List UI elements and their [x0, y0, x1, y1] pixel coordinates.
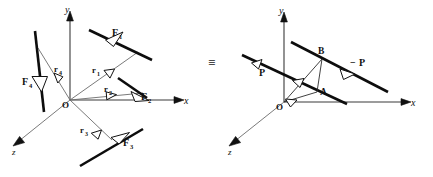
left-axis-x	[70, 97, 184, 104]
right-point-A-label: A	[320, 87, 327, 97]
left-position-vector-r3	[70, 100, 112, 140]
left-force-F1-label-subscript: 1	[119, 33, 122, 40]
right-axis-x-label: x	[410, 97, 416, 108]
left-force-F4	[32, 31, 48, 112]
left-force-F1-label-letter: F	[112, 27, 118, 38]
right-axis-x-arrowhead	[401, 99, 411, 106]
left-axis-z-label: z	[11, 147, 16, 157]
left-r3-line	[70, 100, 112, 140]
right-axis-y	[281, 12, 288, 102]
left-r2-label-letter: r	[104, 84, 108, 94]
left-diagram: y x z O F 1 F 2 F 3 F 4 r 1	[11, 4, 189, 166]
left-axis-x-arrowhead	[174, 97, 184, 104]
right-connector-O-to-B-arrowhead	[293, 79, 305, 88]
left-axis-x-label: x	[183, 95, 189, 106]
right-origin-label: O	[276, 102, 283, 112]
left-axis-y	[67, 11, 74, 100]
right-force-minus-P-label: − P	[350, 57, 365, 68]
left-force-F2-label: F 2	[141, 91, 151, 104]
left-axis-y-label: y	[64, 4, 70, 15]
equivalence-symbol: ≡	[208, 55, 215, 70]
left-force-F3-label-letter: F	[123, 137, 129, 148]
right-point-B-label: B	[318, 46, 325, 56]
right-axis-z-label: z	[227, 147, 232, 157]
left-r4-label-subscript: 4	[59, 70, 62, 76]
right-force-P-label: P	[259, 67, 265, 78]
left-r2-label-subscript: 2	[109, 90, 112, 96]
left-r1-label-subscript: 1	[97, 71, 100, 77]
left-force-F4-label-subscript: 4	[29, 82, 33, 89]
left-force-F3	[80, 129, 143, 166]
vector-diagram-svg: y x z O F 1 F 2 F 3 F 4 r 1	[0, 0, 433, 177]
figure-container: y x z O F 1 F 2 F 3 F 4 r 1	[0, 0, 433, 177]
right-axis-y-label: y	[278, 5, 284, 16]
left-origin-label: O	[62, 100, 69, 110]
left-force-F3-label: F 3	[123, 137, 134, 150]
left-force-F2-label-subscript: 2	[148, 97, 151, 104]
left-r4-label-letter: r	[54, 64, 58, 74]
right-axis-x	[284, 99, 411, 106]
left-force-F3-label-subscript: 3	[130, 143, 134, 150]
left-force-F4-label-letter: F	[22, 76, 28, 87]
left-position-vector-r4-label: r 4	[54, 64, 62, 76]
left-force-F4-arrowhead	[32, 77, 48, 93]
left-position-vector-r1-label: r 1	[92, 65, 100, 77]
right-connector-O-to-A-arrowhead	[286, 99, 298, 107]
left-force-F4-line	[35, 31, 44, 112]
left-force-F3-line	[80, 129, 143, 166]
left-r3-label-subscript: 3	[85, 131, 88, 137]
left-position-vector-r3-label: r 3	[80, 125, 88, 137]
right-force-minus-P-letter: P	[359, 57, 365, 68]
right-force-minus-P-sign: −	[350, 57, 356, 68]
left-r3-arrowhead	[91, 130, 101, 139]
left-r1-label-letter: r	[92, 65, 96, 75]
left-force-F2-label-letter: F	[141, 91, 147, 102]
left-r3-label-letter: r	[80, 125, 84, 135]
right-diagram: y x z O B A P − P	[227, 5, 416, 157]
left-force-F4-label: F 4	[22, 76, 33, 89]
left-r1-arrowhead	[104, 69, 115, 78]
